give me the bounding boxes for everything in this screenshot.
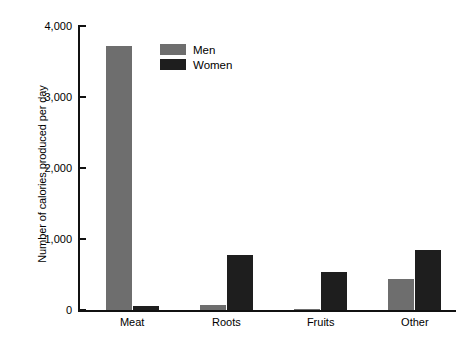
legend-swatch-women-icon <box>160 59 186 70</box>
y-tick-label-3000: 3,000 <box>26 91 72 103</box>
bars-layer <box>79 26 456 310</box>
bar-other-women <box>415 250 441 310</box>
y-tick-label-2000: 2,000 <box>26 162 72 174</box>
x-axis-label-fruits: Fruits <box>307 316 335 328</box>
legend-item-men: Men <box>160 43 232 56</box>
y-tick-label-1000: 1,000 <box>26 233 72 245</box>
x-axis-label-roots: Roots <box>212 316 241 328</box>
x-axis-label-meat: Meat <box>120 316 144 328</box>
legend-swatch-men-icon <box>160 44 186 55</box>
legend-item-women: Women <box>160 58 232 71</box>
bar-meat-men <box>106 46 132 310</box>
bar-fruits-women <box>321 272 347 310</box>
y-axis-title: Number of calories produced per day <box>36 44 48 304</box>
legend-label-men: Men <box>193 44 215 56</box>
bar-roots-women <box>227 255 253 310</box>
x-axis-line <box>78 310 456 312</box>
bar-fruits-men <box>294 309 320 311</box>
bar-other-men <box>388 279 414 310</box>
legend-label-women: Women <box>193 59 232 71</box>
y-tick-label-0: 0 <box>26 304 72 316</box>
bar-roots-men <box>200 305 226 310</box>
x-axis-label-other: Other <box>401 316 429 328</box>
bar-chart: Number of calories produced per day 01,0… <box>0 0 471 356</box>
y-tick-label-4000: 4,000 <box>26 20 72 32</box>
legend: Men Women <box>160 43 232 73</box>
bar-meat-women <box>133 306 159 310</box>
